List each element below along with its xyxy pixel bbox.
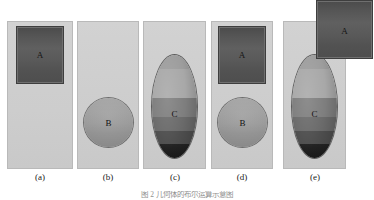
panel-c: C — [144, 22, 205, 168]
shape-a-square-e: A — [317, 1, 372, 58]
shape-a-square-d: A — [219, 27, 265, 83]
shape-label-b-d: B — [218, 119, 267, 128]
panel-b: B — [78, 22, 138, 168]
shape-c-ellipse-e — [292, 55, 337, 158]
shape-label-c: C — [152, 110, 197, 119]
panel-label-d: (d) — [222, 173, 262, 182]
shape-c-ellipse — [152, 55, 197, 158]
panel-label-c: (c) — [155, 173, 195, 182]
figure-caption: 图 2 几何体的布尔运算示意图 — [0, 191, 374, 199]
shape-label-c-e: C — [292, 110, 337, 119]
shape-label-a-e: A — [317, 27, 372, 36]
shape-b-circle: B — [84, 98, 133, 147]
panel-label-a: (a) — [20, 173, 60, 182]
shape-label-a-d: A — [219, 51, 265, 60]
panel-a: A — [8, 22, 72, 168]
shape-a-square: A — [17, 27, 63, 83]
panel-label-b: (b) — [88, 173, 128, 182]
shape-label-b: B — [84, 119, 133, 128]
shape-b-circle-d: B — [218, 98, 267, 147]
panel-d: A B — [212, 22, 272, 168]
shape-label-a: A — [17, 51, 63, 60]
panel-label-e: (e) — [295, 173, 335, 182]
figure-container: A (a) B (b) C (c) A B (d) C A (e) 图 2 几何… — [0, 0, 374, 200]
